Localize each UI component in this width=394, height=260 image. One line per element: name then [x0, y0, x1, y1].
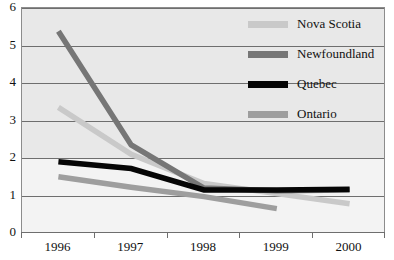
y-tick-label: 2	[10, 150, 17, 163]
y-tick-label: 0	[10, 225, 17, 238]
legend-item-nova-scotia[interactable]: Nova Scotia	[248, 16, 361, 32]
legend-item-ontario[interactable]: Ontario	[248, 106, 337, 122]
x-tick-mark	[239, 232, 240, 238]
y-tick-label: 5	[10, 38, 17, 51]
x-tick-label: 1997	[117, 240, 143, 254]
line-chart: 6543210 19961997199819992000 Nova Scotia…	[0, 0, 394, 260]
x-axis-line	[21, 232, 385, 233]
y-tick-label: 6	[10, 0, 17, 13]
y-tick-label: 1	[10, 188, 17, 201]
legend-item-newfoundland[interactable]: Newfoundland	[248, 46, 374, 62]
x-tick-mark	[312, 232, 313, 238]
y-axis: 6543210	[0, 0, 21, 240]
x-tick-label: 1996	[44, 240, 70, 254]
legend-item-quebec[interactable]: Quebec	[248, 76, 337, 92]
legend-label: Ontario	[297, 107, 337, 121]
legend-swatch-icon	[248, 111, 288, 118]
x-tick-mark	[167, 232, 168, 238]
x-tick-label: 1999	[263, 240, 289, 254]
x-tick-label: 1998	[190, 240, 216, 254]
legend-swatch-icon	[248, 21, 288, 28]
legend-label: Quebec	[297, 77, 337, 91]
legend-label: Newfoundland	[297, 47, 374, 61]
legend-label: Nova Scotia	[297, 17, 361, 31]
x-axis: 19961997199819992000	[21, 232, 385, 260]
legend-swatch-icon	[248, 51, 288, 58]
legend-swatch-icon	[248, 81, 288, 88]
y-tick-label: 3	[10, 113, 17, 126]
x-tick-mark	[94, 232, 95, 238]
y-tick-label: 4	[10, 75, 17, 88]
x-tick-mark	[384, 232, 385, 238]
x-tick-mark	[21, 232, 22, 238]
x-tick-label: 2000	[336, 240, 362, 254]
